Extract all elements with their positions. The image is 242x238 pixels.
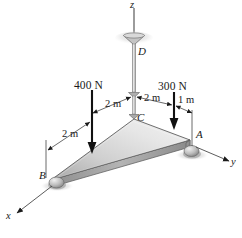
dim-c-right-line bbox=[137, 97, 172, 105]
cable-dc-group bbox=[129, 44, 140, 119]
cable-rod-lower bbox=[133, 96, 136, 114]
support-a-group bbox=[183, 146, 201, 159]
force-400n-group bbox=[88, 90, 97, 154]
x-axis-group bbox=[17, 186, 52, 213]
force-300n-group bbox=[170, 92, 179, 130]
dim-b-left-line bbox=[48, 122, 90, 150]
ceiling-anchor-group bbox=[115, 32, 153, 46]
cable-rod-upper bbox=[132, 44, 135, 92]
statics-diagram-svg bbox=[0, 0, 242, 238]
cable-collar-lower bbox=[129, 115, 139, 120]
x-axis-line bbox=[17, 186, 52, 213]
ceiling-plate bbox=[124, 33, 145, 38]
force-300n-arrowhead bbox=[170, 118, 179, 130]
dim-c-right-group bbox=[137, 97, 172, 105]
dim-c-left-line bbox=[93, 97, 131, 113]
dim-a-right-line bbox=[176, 106, 192, 113]
dim-c-left-group bbox=[93, 97, 131, 113]
triangular-plate-group bbox=[51, 119, 190, 187]
figure-container: z y x D C A B 400 N 300 N 2 m 2 m 2 m 1 … bbox=[0, 0, 242, 238]
